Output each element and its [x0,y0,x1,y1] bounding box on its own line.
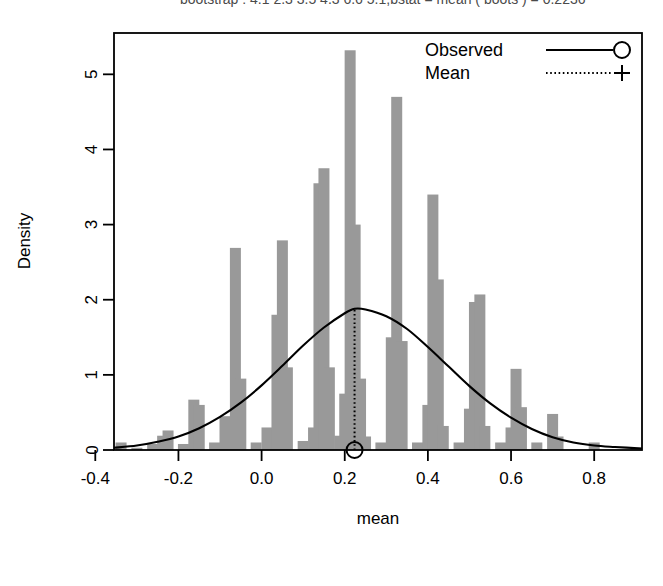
y-tick-label: 3 [83,220,102,229]
histogram-bar [433,279,444,450]
x-tick-label: 0.2 [333,469,357,488]
plot-frame [114,33,642,450]
y-tick-label: 5 [83,70,102,79]
histogram-bar [282,367,293,450]
histogram-bar [495,442,506,450]
y-tick-label: 1 [83,370,102,379]
histogram-bar [209,442,220,450]
histogram-bar [298,441,309,450]
y-tick-label: 4 [83,145,102,154]
histogram-bar [235,379,246,450]
x-tick-label: 0.0 [250,469,274,488]
histogram-bar [147,444,158,450]
histogram-bar [375,442,386,450]
y-tick-labels: 012345 [83,70,102,455]
y-tick-label: 0 [83,445,102,454]
legend-label-observed: Observed [425,40,503,60]
histogram-bar [531,442,542,450]
histogram-bar [251,442,262,450]
histogram-bar [397,341,408,450]
histogram-bar [412,442,423,450]
x-axis-label: mean [357,509,400,528]
histogram-bar [479,426,490,450]
legend-observed-circle-icon [614,42,630,58]
chart-legend: Observed Mean [425,40,630,83]
x-tick-label: 0.8 [582,469,606,488]
y-tick-label: 2 [83,295,102,304]
legend-label-mean: Mean [425,63,470,83]
histogram-bar [438,426,449,450]
x-tick-label: 0.4 [416,469,440,488]
x-tick-labels: -0.4-0.20.00.20.40.60.8 [81,469,606,488]
x-axis-ticks [95,450,594,461]
x-tick-label: -0.2 [164,469,193,488]
histogram-bars [116,50,642,450]
histogram-bar [454,442,465,450]
y-axis-label: Density [15,212,34,269]
x-tick-label: 0.6 [499,469,523,488]
bootstrap-density-figure: bootstrap : 4.1 2.3 3.5 4.3 6.6 5.1,bsta… [0,0,663,586]
histogram-bar [178,444,189,450]
histogram-bar [220,416,231,450]
chart-canvas: -0.4-0.20.00.20.40.60.8 012345 mean Dens… [0,0,663,586]
histogram-bar [262,427,273,450]
y-axis-ticks [103,74,114,450]
histogram-bar [516,407,527,450]
histogram-bar [324,367,335,450]
x-tick-label: -0.4 [81,469,110,488]
